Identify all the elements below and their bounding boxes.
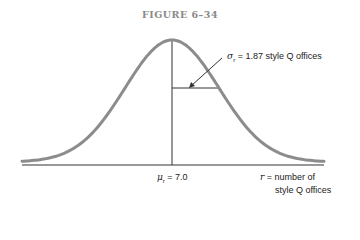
x-axis-label-line2: style Q offices	[275, 185, 331, 195]
mean-label: μr = 7.0	[157, 172, 188, 184]
sigma-label: σr = 1.87 style Q offices	[227, 51, 322, 63]
x-axis-label: r = number of	[260, 172, 315, 182]
sigma-arrow-line	[191, 58, 222, 86]
